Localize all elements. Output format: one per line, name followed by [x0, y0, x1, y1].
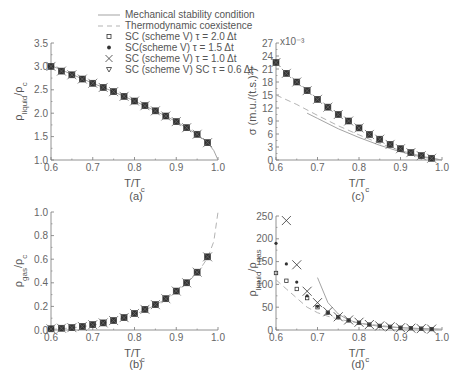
y-tick-label: 3 [267, 142, 273, 153]
x-tick-label: 0.8 [352, 332, 366, 343]
panel-caption: (c) [352, 190, 365, 202]
x-tick-label: 0.8 [128, 332, 142, 343]
cross-marker [106, 55, 113, 62]
legend: Mechanical stability conditionThermodyna… [98, 9, 255, 75]
circle-marker [274, 242, 277, 245]
x-tick-label: 0.8 [352, 162, 366, 173]
circle-marker [295, 281, 298, 284]
square-marker [285, 279, 288, 282]
panel-caption: (b) [129, 358, 142, 370]
x-tick-label: 0.8 [128, 162, 142, 173]
panel-b-gas-density: 0.60.70.80.91.00.00.20.40.60.81.0T/Tcρga… [12, 207, 225, 371]
axes: 0.60.70.80.91.0050100150200250T/Tcρliqui… [246, 211, 449, 371]
mechanical-stability-line [51, 66, 218, 161]
triangle-marker [107, 68, 112, 73]
x-tick-label: 1.0 [435, 332, 449, 343]
y-axis-label: ρgas/ρc [12, 255, 29, 288]
y-tick-label: 12 [262, 103, 274, 114]
legend-item: SC (scheme V) τ = 1.0 Δt [106, 53, 237, 64]
y-tick-label: 27 [262, 38, 274, 49]
y-tick-label: 50 [262, 302, 274, 313]
x-tick-label: 0.9 [169, 332, 183, 343]
legend-item: SC(scheme V) τ = 1.5 Δt [107, 42, 234, 53]
y-tick-label: 3.0 [34, 61, 48, 72]
legend-label: SC(scheme V) τ = 1.5 Δt [125, 42, 234, 53]
y-tick-label: 1.5 [34, 131, 48, 142]
legend-label: SC (scheme V) τ = 1.0 Δt [125, 53, 237, 64]
legend-label: Thermodynamic coexistence [125, 20, 253, 31]
x-tick-label: 1.0 [211, 162, 225, 173]
y-tick-label: 0.0 [34, 325, 48, 336]
x-tick-label: 1.0 [435, 162, 449, 173]
x-tick-label: 0.9 [169, 162, 183, 173]
legend-label: SC (scheme V) τ = 2.0 Δt [125, 31, 237, 42]
y-tick-label: 18 [262, 77, 274, 88]
y-tick-label: 0.2 [34, 301, 48, 312]
legend-item: Thermodynamic coexistence [98, 20, 253, 31]
y-tick-label: 9 [267, 116, 273, 127]
cross-marker [344, 315, 353, 324]
y-axis-label: ρliquid/ρgas [246, 249, 263, 296]
y-tick-label: 21 [262, 64, 274, 75]
x-tick-label: 0.9 [394, 162, 408, 173]
panel-caption: (a) [129, 190, 142, 202]
legend-label: SC (scheme V) SC τ = 0.6 Δt [125, 64, 253, 75]
y-tick-label: 1.0 [34, 207, 48, 218]
y-tick-label: 200 [256, 233, 273, 244]
x-tick-label: 0.7 [311, 162, 325, 173]
x-tick-label: 1.0 [211, 332, 225, 343]
legend-item: SC (scheme V) SC τ = 0.6 Δt [107, 64, 254, 75]
panel-c-surface-tension: 0.60.70.80.91.00369121518212427T/Tcσ (m.… [246, 36, 449, 202]
legend-item: Mechanical stability condition [98, 9, 255, 20]
panel-d-density-ratio: 0.60.70.80.91.0050100150200250T/Tcρliqui… [246, 211, 449, 371]
figure: Mechanical stability conditionThermodyna… [0, 0, 460, 390]
legend-item: SC (scheme V) τ = 2.0 Δt [107, 31, 237, 42]
y-axis-label: σ (m.u./(t.s.)2) [246, 68, 258, 136]
y-tick-label: 0.4 [34, 277, 48, 288]
y-tick-label: 0.8 [34, 230, 48, 241]
y-tick-label: 2.5 [34, 84, 48, 95]
y-tick-label: 24 [262, 51, 274, 62]
y-tick-label: 1.0 [34, 155, 48, 166]
x-tick-label: 0.7 [86, 332, 100, 343]
circle-marker [316, 305, 319, 308]
y-tick-label: 15 [262, 90, 274, 101]
circle-marker [285, 262, 288, 265]
x-tick-label: 0.9 [394, 332, 408, 343]
x-tick-label: 0.7 [86, 162, 100, 173]
y-tick-label: 0 [267, 155, 273, 166]
axes: 0.60.70.80.91.00.00.20.40.60.81.0T/Tcρga… [12, 207, 225, 371]
y-tick-label: 0 [267, 325, 273, 336]
legend-label: Mechanical stability condition [125, 9, 255, 20]
square-marker [107, 35, 111, 39]
data-markers [272, 58, 437, 163]
data-markers [47, 252, 213, 333]
y-multiplier: x10⁻³ [280, 36, 305, 47]
y-tick-label: 6 [267, 129, 273, 140]
y-tick-label: 0.6 [34, 254, 48, 265]
y-tick-label: 250 [256, 211, 273, 222]
cross-marker [323, 307, 332, 316]
data-markers [274, 216, 436, 334]
panel-caption: (d) [351, 358, 364, 370]
y-axis-label: ρliquid/ρc [12, 82, 29, 120]
cross-marker [292, 260, 301, 269]
circle-marker [107, 46, 111, 50]
x-tick-label: 0.7 [311, 332, 325, 343]
y-tick-label: 2.0 [34, 108, 48, 119]
square-marker [295, 287, 298, 290]
mechanical-stability-line [318, 278, 443, 330]
cross-marker [282, 216, 291, 225]
circle-marker [306, 294, 309, 297]
y-tick-label: 3.5 [34, 38, 48, 49]
